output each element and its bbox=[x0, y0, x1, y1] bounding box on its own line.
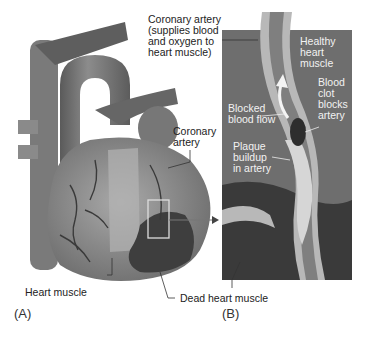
label-dead-heart-muscle: Dead heart muscle bbox=[180, 293, 268, 304]
label-coronary-artery-supplies: Coronary artery (supplies blood and oxyg… bbox=[148, 14, 221, 58]
heart-drawing bbox=[18, 22, 219, 281]
panel-letter-a: (A) bbox=[14, 306, 31, 321]
label-plaque-buildup: Plaque buildup in artery bbox=[233, 141, 271, 174]
label-coronary-artery: Coronary artery bbox=[173, 126, 216, 148]
label-blocked-blood-flow: Blocked blood flow bbox=[228, 103, 275, 125]
label-heart-muscle: Heart muscle bbox=[25, 287, 87, 298]
panel-letter-b: (B) bbox=[222, 306, 239, 321]
label-blood-clot: Blood clot blocks artery bbox=[318, 77, 348, 121]
label-healthy-heart-muscle: Healthy heart muscle bbox=[300, 36, 336, 69]
